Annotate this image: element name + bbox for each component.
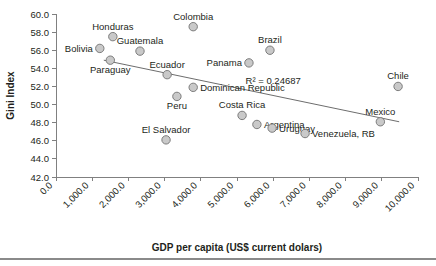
y-tick-label: 52.0 bbox=[31, 81, 50, 92]
y-tick-label: 44.0 bbox=[31, 153, 50, 164]
data-point-dominican-republic[interactable] bbox=[189, 83, 197, 91]
x-tick-label: 9,000.0 bbox=[350, 180, 380, 210]
data-point-chile[interactable] bbox=[394, 82, 402, 90]
x-tick-label: 1,000.0 bbox=[60, 180, 90, 210]
x-axis-title: GDP per capita (US$ current dolars) bbox=[152, 242, 322, 253]
x-tick-label: 7,000.0 bbox=[278, 180, 308, 210]
data-point-uruguay[interactable] bbox=[268, 124, 276, 132]
y-tick-label: 50.0 bbox=[31, 99, 50, 110]
point-label-costa-rica: Costa Rica bbox=[219, 99, 266, 110]
point-label-guatemala: Guatemala bbox=[117, 35, 164, 46]
point-label-bolivia: Bolivia bbox=[65, 43, 94, 54]
y-tick-label: 54.0 bbox=[31, 63, 50, 74]
data-point-panama[interactable] bbox=[245, 59, 253, 67]
y-tick-label: 60.0 bbox=[31, 9, 50, 20]
data-point-venezuela-rb[interactable] bbox=[301, 129, 309, 137]
x-tick-label: 4,000.0 bbox=[169, 180, 199, 210]
point-label-mexico: Mexico bbox=[365, 106, 395, 117]
point-label-chile: Chile bbox=[387, 70, 409, 81]
point-label-ecuador: Ecuador bbox=[149, 59, 184, 70]
point-label-panama: Panama bbox=[207, 57, 243, 68]
data-point-colombia[interactable] bbox=[189, 22, 197, 30]
point-label-colombia: Colombia bbox=[173, 11, 214, 22]
data-point-bolivia[interactable] bbox=[96, 44, 104, 52]
point-label-brazil: Brazil bbox=[258, 34, 282, 45]
data-point-paraguay[interactable] bbox=[106, 56, 114, 64]
data-point-el-salvador[interactable] bbox=[162, 136, 170, 144]
data-point-costa-rica[interactable] bbox=[238, 111, 246, 119]
scatter-plot: 42.044.046.048.050.052.054.056.058.060.0… bbox=[0, 0, 436, 266]
point-label-dominican-republic: Dominican Republic bbox=[200, 82, 285, 93]
data-point-mexico[interactable] bbox=[376, 118, 384, 126]
x-tick-label: 6,000.0 bbox=[241, 180, 271, 210]
data-point-brazil[interactable] bbox=[266, 46, 274, 54]
y-tick-label: 56.0 bbox=[31, 45, 50, 56]
x-tick-label: 10,000.0 bbox=[382, 180, 416, 214]
point-label-peru: Peru bbox=[167, 100, 187, 111]
chart-figure: 42.044.046.048.050.052.054.056.058.060.0… bbox=[0, 0, 436, 266]
data-point-argentina[interactable] bbox=[253, 120, 261, 128]
point-label-venezuela-rb: Venezuela, RB bbox=[312, 128, 375, 139]
point-label-paraguay: Paraguay bbox=[90, 64, 131, 75]
data-point-ecuador[interactable] bbox=[163, 70, 171, 78]
point-label-el-salvador: El Salvador bbox=[142, 124, 191, 135]
y-axis-title: Gini Index bbox=[5, 71, 16, 120]
x-tick-label: 8,000.0 bbox=[314, 180, 344, 210]
point-label-uruguay: Uruguay bbox=[279, 123, 315, 134]
y-tick-label: 58.0 bbox=[31, 27, 50, 38]
x-tick-label: 5,000.0 bbox=[205, 180, 235, 210]
y-tick-label: 46.0 bbox=[31, 135, 50, 146]
x-tick-label: 2,000.0 bbox=[97, 180, 127, 210]
data-point-peru[interactable] bbox=[173, 92, 181, 100]
x-tick-label: 3,000.0 bbox=[133, 180, 163, 210]
point-label-honduras: Honduras bbox=[92, 21, 133, 32]
bottom-divider bbox=[0, 258, 436, 260]
y-tick-label: 48.0 bbox=[31, 117, 50, 128]
data-point-guatemala[interactable] bbox=[136, 47, 144, 55]
